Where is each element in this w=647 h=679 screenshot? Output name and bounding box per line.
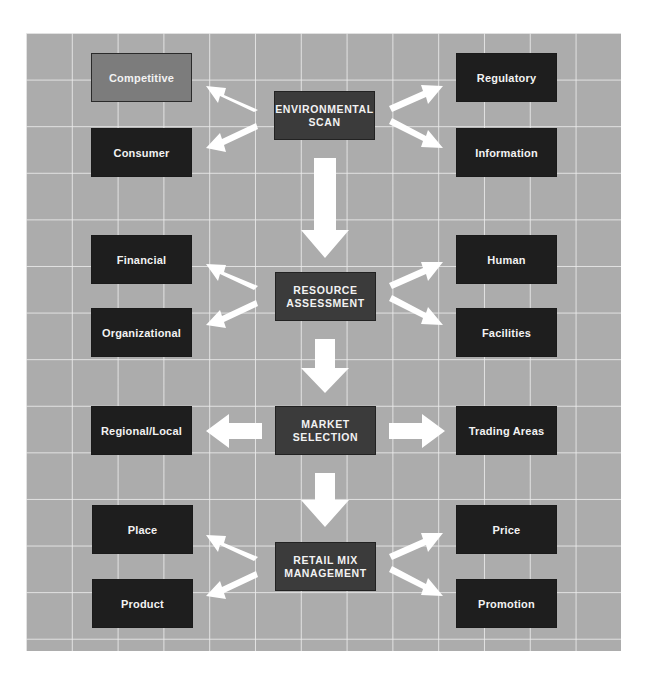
box-market-selection: MARKET SELECTION bbox=[275, 406, 376, 455]
arrow-to-trading-areas-icon bbox=[389, 414, 445, 448]
box-organizational: Organizational bbox=[91, 308, 192, 357]
box-place: Place bbox=[92, 505, 193, 554]
box-environmental-scan: ENVIRONMENTAL SCAN bbox=[274, 91, 375, 140]
box-regulatory: Regulatory bbox=[456, 53, 557, 102]
box-label: Human bbox=[487, 254, 525, 266]
arrow-to-consumer-icon bbox=[206, 123, 258, 152]
box-label: Product bbox=[121, 598, 164, 610]
box-facilities: Facilities bbox=[456, 308, 557, 357]
center-label-line: MANAGEMENT bbox=[284, 567, 366, 580]
box-product: Product bbox=[92, 579, 193, 628]
center-label-line: ASSESSMENT bbox=[286, 297, 364, 310]
arrow-to-regional-icon bbox=[206, 414, 262, 448]
box-label: Facilities bbox=[482, 327, 531, 339]
box-competitive: Competitive bbox=[91, 53, 192, 102]
arrow-to-competitive-icon bbox=[206, 86, 258, 112]
center-label-line: ENVIRONMENTAL bbox=[275, 103, 374, 116]
box-label: Consumer bbox=[114, 147, 170, 159]
box-label: Place bbox=[128, 524, 158, 536]
arrow-to-information-icon bbox=[389, 118, 443, 148]
box-consumer: Consumer bbox=[91, 128, 192, 177]
box-label: Regulatory bbox=[477, 72, 536, 84]
box-label: Organizational bbox=[102, 327, 181, 339]
arrow-to-place-icon bbox=[206, 535, 258, 561]
box-label: Price bbox=[493, 524, 521, 536]
center-label-line: MARKET bbox=[293, 418, 359, 431]
center-label-line: SCAN bbox=[275, 116, 374, 129]
arrow-to-promotion-icon bbox=[389, 566, 443, 596]
box-label: Competitive bbox=[109, 72, 174, 84]
box-retail-mix-management: RETAIL MIX MANAGEMENT bbox=[275, 542, 376, 591]
box-label: Promotion bbox=[478, 598, 535, 610]
arrow-to-regulatory-icon bbox=[389, 85, 443, 112]
arrow-to-product-icon bbox=[206, 571, 258, 599]
box-information: Information bbox=[456, 128, 557, 177]
down-arrow-1-icon bbox=[301, 158, 349, 258]
arrow-to-human-icon bbox=[389, 262, 443, 289]
box-resource-assessment: RESOURCE ASSESSMENT bbox=[275, 272, 376, 321]
center-label-line: SELECTION bbox=[293, 431, 359, 444]
box-trading-areas: Trading Areas bbox=[456, 406, 557, 455]
down-arrow-3-icon bbox=[301, 473, 349, 527]
box-label: Regional/Local bbox=[101, 425, 182, 437]
arrow-to-organizational-icon bbox=[206, 300, 258, 328]
box-regional-local: Regional/Local bbox=[91, 406, 192, 455]
box-promotion: Promotion bbox=[456, 579, 557, 628]
box-financial: Financial bbox=[91, 235, 192, 284]
box-label: Information bbox=[475, 147, 538, 159]
center-label-line: RETAIL MIX bbox=[284, 554, 366, 567]
down-arrow-2-icon bbox=[301, 339, 349, 393]
box-human: Human bbox=[456, 235, 557, 284]
center-label-line: RESOURCE bbox=[286, 284, 364, 297]
arrow-to-price-icon bbox=[389, 533, 443, 560]
box-price: Price bbox=[456, 505, 557, 554]
arrow-to-financial-icon bbox=[206, 264, 258, 290]
arrow-to-facilities-icon bbox=[389, 295, 443, 325]
box-label: Financial bbox=[117, 254, 166, 266]
box-label: Trading Areas bbox=[469, 425, 545, 437]
